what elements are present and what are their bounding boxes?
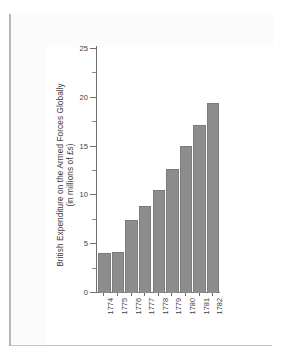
y-tick-label: 5 (48, 239, 88, 248)
bar (193, 125, 205, 293)
x-tick-label: 1780 (188, 298, 197, 314)
x-tick-label: 1776 (134, 298, 143, 314)
x-tick-label: 1774 (106, 298, 115, 314)
bar (139, 206, 151, 293)
y-axis-title: British Expenditure on the Armed Forces … (54, 44, 76, 306)
y-tick-major (90, 48, 96, 49)
y-tick-minor (92, 219, 96, 220)
bar-chart-figure: British Expenditure on the Armed Forces … (36, 32, 262, 330)
y-tick-major (90, 97, 96, 98)
y-tick-minor (92, 268, 96, 269)
y-tick-label: 20 (48, 93, 88, 102)
x-tick-label: 1782 (215, 298, 224, 314)
y-tick-minor (92, 170, 96, 171)
x-tick-label: 1781 (202, 298, 211, 314)
y-tick-major (90, 146, 96, 147)
bar (98, 253, 110, 293)
y-tick-label: 10 (48, 190, 88, 199)
x-tick-label: 1778 (161, 298, 170, 314)
x-tick-label: 1779 (174, 298, 183, 314)
bar (112, 252, 124, 293)
y-tick-minor (92, 72, 96, 73)
y-tick-major (90, 243, 96, 244)
y-tick-minor (92, 121, 96, 122)
x-tick-label: 1777 (147, 298, 156, 314)
y-tick-major (90, 292, 96, 293)
bar (180, 146, 192, 293)
y-tick-label: 25 (48, 44, 88, 53)
scanned-page-background: British Expenditure on the Armed Forces … (0, 0, 288, 363)
y-tick-label: 0 (48, 288, 88, 297)
y-tick-major (90, 194, 96, 195)
y-tick-label: 15 (48, 142, 88, 151)
x-tick-label: 1775 (120, 298, 129, 314)
y-axis-line (96, 46, 97, 293)
bar (166, 169, 178, 293)
bar (153, 190, 165, 293)
bar (207, 103, 219, 293)
bar (125, 220, 137, 293)
